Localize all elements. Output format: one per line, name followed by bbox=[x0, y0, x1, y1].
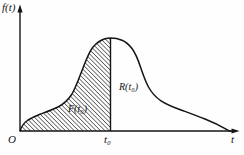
plot-canvas bbox=[0, 0, 244, 155]
figure-container: f(t) t O t₀ F(t₀) R(t₀) bbox=[0, 0, 244, 155]
y-axis-label: f(t) bbox=[2, 2, 15, 13]
t0-tick-label: t₀ bbox=[104, 134, 111, 145]
origin-label: O bbox=[8, 134, 16, 145]
x-axis-label: t bbox=[231, 134, 234, 145]
y-axis-arrowhead bbox=[17, 5, 22, 13]
reliability-region-label: R(t₀) bbox=[119, 82, 138, 92]
cumulative-region-label: F(t₀) bbox=[68, 104, 87, 114]
